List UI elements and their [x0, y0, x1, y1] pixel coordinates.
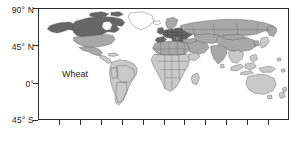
region-caribbean: [108, 53, 118, 56]
region-australia: [246, 74, 276, 94]
region-pacific-islands-2: [281, 69, 285, 72]
region-russia: [180, 19, 277, 36]
map-annotation-wheat: Wheat: [62, 70, 88, 79]
region-canada-arctic-1: [89, 12, 108, 18]
x-tick-mark-3: [101, 120, 102, 125]
region-indonesia-java: [240, 71, 253, 75]
region-pacific-islands-1: [277, 58, 281, 61]
region-sri-lanka: [220, 64, 224, 68]
x-tick-mark-5: [143, 120, 144, 125]
region-southeast-asia: [229, 50, 244, 63]
y-tick-label-45s: 45° S: [2, 116, 34, 125]
x-tick-mark-9: [226, 120, 227, 125]
region-mexico: [79, 47, 103, 56]
region-japan: [260, 37, 270, 48]
wheat-world-map-figure: 90° N 45° N 0° 45° S: [0, 0, 300, 143]
region-scandinavia: [166, 17, 178, 29]
x-tick-mark-6: [164, 120, 165, 125]
y-axis-labels: 90° N 45° N 0° 45° S: [0, 0, 34, 143]
x-tick-mark-1: [59, 120, 60, 125]
region-indonesia-sumatra: [231, 64, 244, 71]
region-iceland: [153, 21, 161, 25]
x-tick-mark-2: [80, 120, 81, 125]
region-philippines: [250, 54, 258, 62]
x-tick-mark-10: [247, 120, 248, 125]
region-canada: [72, 17, 125, 38]
region-borneo: [245, 63, 256, 71]
y-tick-label-0: 0°: [2, 80, 34, 89]
y-tick-label-45n: 45° N: [2, 43, 34, 52]
x-tick-mark-8: [205, 120, 206, 125]
region-central-america: [100, 55, 112, 63]
x-tick-mark-4: [122, 120, 123, 125]
x-tick-mark-7: [184, 120, 185, 125]
region-greenland: [128, 12, 154, 30]
region-new-guinea: [259, 66, 276, 72]
region-india: [211, 45, 228, 64]
region-tasmania: [267, 95, 272, 99]
region-sub-saharan-africa: [151, 54, 190, 91]
region-madagascar: [191, 73, 199, 85]
map-plot-frame: [38, 8, 289, 120]
y-tick-label-90n: 90° N: [2, 6, 34, 15]
region-new-zealand-north: [282, 87, 286, 93]
world-map-svg: [39, 9, 288, 119]
x-tick-mark-11: [268, 120, 269, 125]
y-tick-mark-45s: [33, 120, 38, 121]
region-canada-arctic-2: [111, 12, 123, 17]
region-new-zealand-south: [279, 92, 285, 98]
